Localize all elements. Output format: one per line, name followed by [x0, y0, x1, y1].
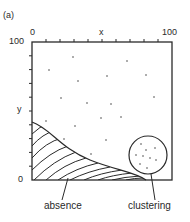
scatter-points: [45, 56, 155, 155]
cluster-points: [135, 143, 157, 169]
absence-leader-line: [62, 178, 68, 200]
plot-frame: [32, 42, 172, 180]
clustering-leader-line: [151, 174, 155, 200]
cluster-circle: [129, 136, 167, 174]
clustering-region: [129, 136, 167, 174]
pattern-diagram: [0, 0, 190, 222]
